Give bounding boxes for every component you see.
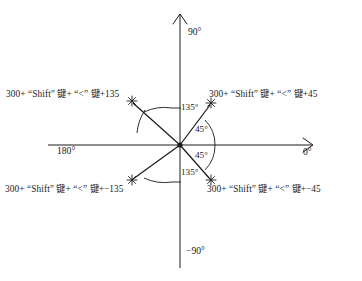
axis-label-0: 0° — [303, 147, 312, 157]
angle-annotation-135-upper: 135° — [181, 103, 198, 112]
ray-label-upper-left: 300+ “Shift” 键+ “<” 键+135 — [6, 90, 119, 99]
arc-135-upper-extension — [144, 107, 172, 112]
angle-annotation-45-upper: 45° — [195, 125, 208, 134]
axis-label-90: 90° — [188, 27, 201, 37]
ray-tip-marker-upper-left — [127, 96, 137, 106]
ray-upper-left — [133, 103, 180, 145]
ray-tip-marker-upper-right — [206, 98, 216, 108]
ray-label-upper-right: 300+ “Shift” 键+ “<” 键+45 — [209, 90, 318, 99]
axis-label-negative-90: −90° — [186, 246, 205, 256]
ray-tip-marker-lower-left — [127, 175, 137, 185]
ray-label-lower-right: 300+ “Shift” 键+ “<” 键+−45 — [207, 185, 321, 194]
axis-label-180: 180° — [57, 146, 75, 156]
angle-annotation-135-lower: 135° — [181, 168, 198, 177]
angle-annotation-45-lower: 45° — [195, 151, 208, 160]
arc-135-lower — [144, 178, 172, 183]
ray-lower-left — [133, 145, 180, 179]
ray-label-lower-left: 300+ “Shift” 键+ “<” 键+−135 — [5, 185, 124, 194]
origin-point — [177, 142, 182, 147]
figure-canvas: 300+ “Shift” 键+ “<” 键+135 300+ “Shift” 键… — [0, 0, 362, 281]
angle-diagram — [0, 0, 362, 281]
